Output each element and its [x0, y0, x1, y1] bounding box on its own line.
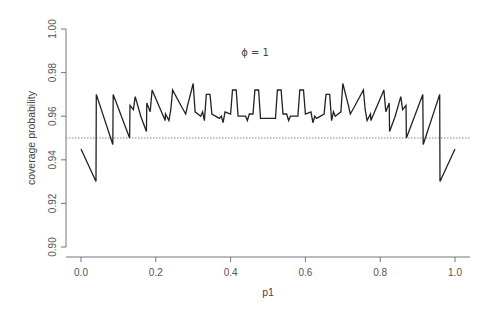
- x-tick-label: 1.0: [448, 267, 462, 278]
- x-tick-label: 0.8: [373, 267, 387, 278]
- y-tick-label: 0.94: [47, 150, 58, 170]
- x-tick-label: 0.2: [149, 267, 163, 278]
- x-axis-title: p1: [262, 286, 274, 298]
- x-axis: 0.00.20.40.60.81.0: [66, 257, 470, 278]
- x-tick-label: 0.0: [74, 267, 88, 278]
- x-tick-label: 0.4: [224, 267, 238, 278]
- y-axis-title: coverage probability: [25, 90, 37, 185]
- x-tick-label: 0.6: [298, 267, 312, 278]
- y-tick-label: 0.92: [47, 193, 58, 213]
- phi-annotation: ϕ = 1: [241, 47, 269, 58]
- y-tick-label: 0.98: [47, 62, 58, 82]
- coverage-probability-chart: 0.900.920.940.960.981.00 0.00.20.40.60.8…: [0, 0, 491, 314]
- y-tick-label: 0.90: [47, 237, 58, 257]
- y-tick-label: 1.00: [47, 19, 58, 39]
- y-axis: 0.900.920.940.960.981.00: [47, 19, 66, 257]
- coverage-series-line: [81, 84, 455, 182]
- y-tick-label: 0.96: [47, 106, 58, 126]
